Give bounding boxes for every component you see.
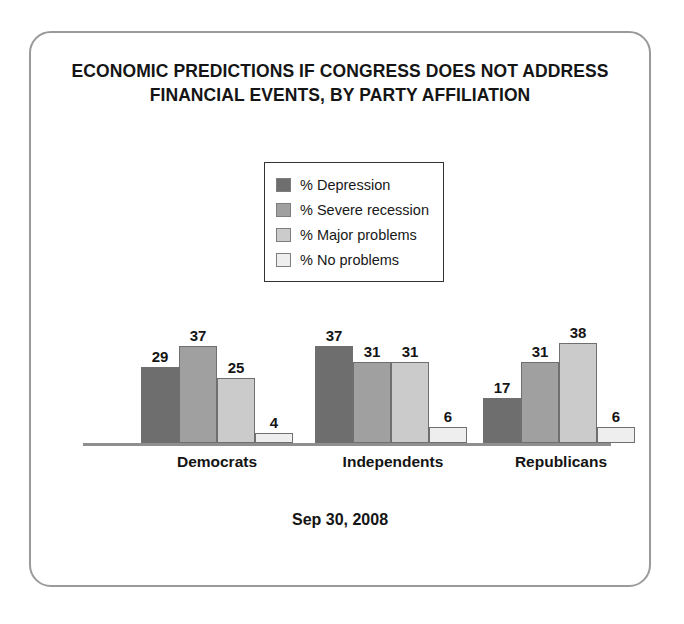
chart-title-line-2: FINANCIAL EVENTS, BY PARTY AFFILIATION	[31, 83, 649, 107]
bar-rect[interactable]	[391, 362, 429, 443]
bar-group-democrats: 2937254	[141, 313, 293, 443]
x-axis-category-labels: DemocratsIndependentsRepublicans	[83, 453, 611, 479]
bar-value-label: 31	[364, 344, 381, 359]
bar-rect[interactable]	[521, 362, 559, 443]
bar-rect[interactable]	[179, 346, 217, 443]
bar-group-republicans: 1731386	[483, 313, 635, 443]
bar-value-label: 25	[228, 360, 245, 375]
bar-value-label: 31	[532, 344, 549, 359]
chart-title: ECONOMIC PREDICTIONS IF CONGRESS DOES NO…	[31, 59, 649, 107]
bar-rect[interactable]	[315, 346, 353, 443]
legend-item-depression: % Depression	[276, 172, 429, 197]
x-axis-baseline	[83, 443, 611, 446]
bar-rect[interactable]	[559, 343, 597, 443]
bar-independents-series-2[interactable]: 31	[353, 313, 391, 443]
bar-group-independents: 3731316	[315, 313, 467, 443]
bar-value-label: 4	[270, 415, 278, 430]
bar-value-label: 37	[190, 328, 207, 343]
bar-value-label: 6	[444, 409, 452, 424]
bar-democrats-series-3[interactable]: 25	[217, 313, 255, 443]
bar-republicans-series-2[interactable]: 31	[521, 313, 559, 443]
bar-value-label: 38	[570, 325, 587, 340]
legend-item-major-problems: % Major problems	[276, 222, 429, 247]
bar-democrats-series-4[interactable]: 4	[255, 313, 293, 443]
legend-label-major-problems: % Major problems	[300, 227, 417, 243]
chart-card: ECONOMIC PREDICTIONS IF CONGRESS DOES NO…	[29, 31, 651, 587]
bar-rect[interactable]	[255, 433, 293, 443]
legend-item-no-problems: % No problems	[276, 247, 429, 272]
bar-rect[interactable]	[141, 367, 179, 443]
category-label-democrats: Democrats	[137, 453, 297, 471]
bar-democrats-series-2[interactable]: 37	[179, 313, 217, 443]
legend-swatch-no-problems	[276, 253, 291, 267]
bar-independents-series-1[interactable]: 37	[315, 313, 353, 443]
chart-plot-area: 293725437313161731386	[83, 313, 603, 443]
bar-rect[interactable]	[597, 427, 635, 443]
bar-republicans-series-4[interactable]: 6	[597, 313, 635, 443]
bar-rect[interactable]	[217, 378, 255, 443]
chart-legend: % Depression % Severe recession % Major …	[264, 162, 444, 282]
bar-independents-series-3[interactable]: 31	[391, 313, 429, 443]
bar-value-label: 6	[612, 409, 620, 424]
bar-democrats-series-1[interactable]: 29	[141, 313, 179, 443]
bar-rect[interactable]	[429, 427, 467, 443]
bar-value-label: 17	[494, 380, 511, 395]
bar-value-label: 31	[402, 344, 419, 359]
chart-title-line-1: ECONOMIC PREDICTIONS IF CONGRESS DOES NO…	[31, 59, 649, 83]
bar-republicans-series-3[interactable]: 38	[559, 313, 597, 443]
legend-label-severe-recession: % Severe recession	[300, 202, 429, 218]
category-label-republicans: Republicans	[481, 453, 641, 471]
legend-swatch-severe-recession	[276, 203, 291, 217]
legend-label-no-problems: % No problems	[300, 252, 399, 268]
legend-swatch-major-problems	[276, 228, 291, 242]
bar-independents-series-4[interactable]: 6	[429, 313, 467, 443]
legend-label-depression: % Depression	[300, 177, 390, 193]
legend-item-severe-recession: % Severe recession	[276, 197, 429, 222]
bar-rect[interactable]	[353, 362, 391, 443]
bar-value-label: 29	[152, 349, 169, 364]
legend-swatch-depression	[276, 178, 291, 192]
bar-rect[interactable]	[483, 398, 521, 443]
chart-footnote: Sep 30, 2008	[31, 511, 649, 529]
bar-republicans-series-1[interactable]: 17	[483, 313, 521, 443]
bar-value-label: 37	[326, 328, 343, 343]
category-label-independents: Independents	[313, 453, 473, 471]
